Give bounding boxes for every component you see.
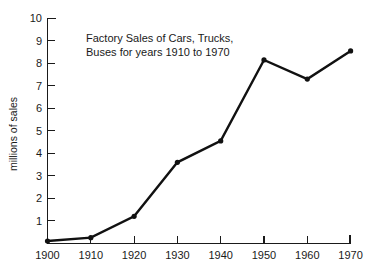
chart-title-line-2: Buses for years 1910 to 1970 — [86, 46, 230, 58]
x-tick-label-1920: 1920 — [122, 249, 146, 261]
x-tick-label-1910: 1910 — [79, 249, 103, 261]
data-point-1960 — [305, 76, 310, 81]
y-tick-label-5: 5 — [36, 125, 42, 137]
data-point-1950 — [261, 57, 266, 62]
screenshot-root: millions of sales Factory Sales of Cars,… — [0, 0, 373, 277]
chart-canvas: millions of sales Factory Sales of Cars,… — [0, 0, 373, 277]
y-tick-label-6: 6 — [36, 102, 42, 114]
x-tick-label-1970: 1970 — [338, 249, 362, 261]
x-tick-label-1950: 1950 — [252, 249, 276, 261]
y-tick-label-3: 3 — [36, 170, 42, 182]
data-point-1940 — [218, 138, 223, 143]
chart-title-line-1: Factory Sales of Cars, Trucks, — [86, 32, 233, 44]
x-tick-label-1960: 1960 — [295, 249, 319, 261]
series-markers-group — [45, 48, 353, 243]
y-tick-label-8: 8 — [36, 57, 42, 69]
y-tick-label-9: 9 — [36, 35, 42, 47]
y-axis-tick-labels: 1 2 3 4 5 6 7 8 9 10 — [30, 12, 42, 227]
data-point-1920 — [132, 214, 137, 219]
y-tick-label-1: 1 — [36, 215, 42, 227]
line-chart-figure: millions of sales Factory Sales of Cars,… — [0, 0, 373, 277]
y-tick-label-2: 2 — [36, 192, 42, 204]
data-point-1970 — [348, 48, 353, 53]
y-tick-label-4: 4 — [36, 147, 42, 159]
data-point-1910 — [88, 235, 93, 240]
x-axis-tick-labels: 1900 1910 1920 1930 1940 1950 1960 1970 — [35, 249, 363, 261]
data-point-1900 — [45, 238, 50, 243]
y-axis-ticks — [48, 41, 56, 221]
data-point-1930 — [175, 160, 180, 165]
x-tick-label-1900: 1900 — [35, 249, 59, 261]
x-tick-label-1940: 1940 — [208, 249, 232, 261]
x-tick-label-1930: 1930 — [165, 249, 189, 261]
y-tick-label-10: 10 — [30, 12, 42, 24]
y-tick-label-7: 7 — [36, 80, 42, 92]
y-axis-title: millions of sales — [7, 97, 19, 171]
